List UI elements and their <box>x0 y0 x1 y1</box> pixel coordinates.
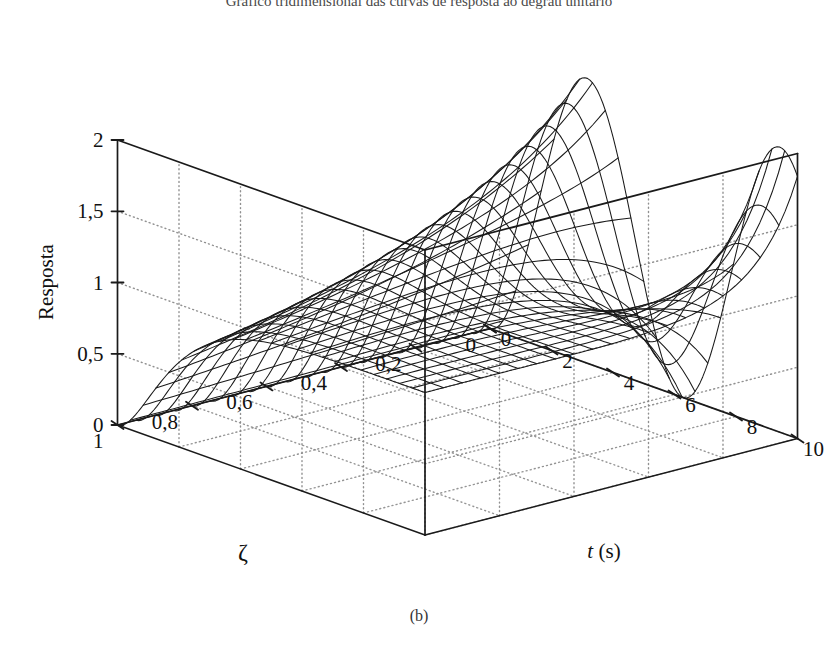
zeta-tick-label-3: 0,4 <box>301 371 327 396</box>
t-axis-unit: (s) <box>598 539 620 563</box>
surface-mesh-wireframe <box>118 78 798 426</box>
axis-frame-lines <box>118 140 798 535</box>
zeta-tick-label-0: 1 <box>93 429 104 454</box>
subfigure-caption: (b) <box>410 607 429 625</box>
zeta-axis-title: ζ <box>238 539 248 566</box>
zeta-tick-label-4: 0,2 <box>375 351 401 376</box>
z-tick-label-1: 0,5 <box>77 341 103 366</box>
t-tick-label-4: 8 <box>747 414 758 439</box>
t-tick-label-5: 10 <box>803 436 824 461</box>
t-tick-label-0: 0 <box>501 326 512 351</box>
zeta-tick-label-2: 0,6 <box>226 390 252 415</box>
t-tick-label-1: 2 <box>562 348 573 373</box>
zeta-tick-label-1: 0,8 <box>152 409 178 434</box>
t-axis-variable: t <box>587 539 593 563</box>
t-tick-label-3: 6 <box>685 392 696 417</box>
z-tick-label-4: 2 <box>93 128 104 153</box>
t-axis-title: t (s) <box>587 539 620 564</box>
z-tick-label-3: 1,5 <box>77 199 103 224</box>
surface-plot-canvas <box>0 0 838 658</box>
figure-page: Gráfico tridimensional das curvas de res… <box>0 0 838 658</box>
t-tick-label-2: 4 <box>624 370 635 395</box>
zeta-tick-label-5: 0 <box>466 332 477 357</box>
z-tick-label-2: 1 <box>93 270 104 295</box>
z-axis-title: Resposta <box>34 244 59 320</box>
